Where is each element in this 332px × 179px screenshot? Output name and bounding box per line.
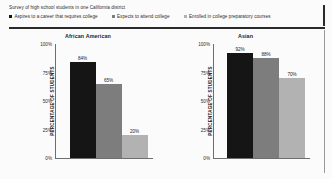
- y-tick: 50%: [43, 99, 52, 104]
- legend-label: Enrolled in college preparatory courses: [189, 14, 271, 20]
- legend-item-aspires: Aspires to a career that requires colleg…: [9, 14, 98, 20]
- y-tick: 25%: [201, 127, 210, 132]
- bar-slot: 70%: [279, 44, 305, 158]
- bar-value-label: 92%: [227, 47, 253, 52]
- legend-swatch-icon: [112, 15, 115, 18]
- bar-aspires[interactable]: 92%: [227, 53, 253, 158]
- bar-group: 92% 88% 70%: [214, 44, 310, 158]
- legend-item-enrolled: Enrolled in college preparatory courses: [184, 14, 271, 20]
- bar-value-label: 65%: [96, 78, 122, 83]
- panel-title: African American: [9, 33, 167, 39]
- plot-area: PERCENTAGE OF STUDENTS 100% 75% 50% 25% …: [55, 44, 153, 159]
- legend-label: Expects to attend college: [117, 14, 170, 20]
- bar-value-label: 20%: [122, 129, 148, 134]
- bar-value-label: 84%: [70, 56, 96, 61]
- y-tick: 0%: [45, 156, 52, 161]
- header-divider: [9, 27, 325, 29]
- bar-group: 84% 65% 20%: [56, 44, 153, 158]
- bar-slot: 65%: [96, 44, 122, 158]
- bar-value-label: 88%: [253, 52, 279, 57]
- legend-label: Aspires to a career that requires colleg…: [14, 14, 97, 20]
- bar-enrolled[interactable]: 70%: [279, 78, 305, 158]
- bar-slot: 84%: [70, 44, 96, 158]
- bar-slot: 92%: [227, 44, 253, 158]
- chart-title: Survey of high school students in one Ca…: [9, 5, 321, 11]
- chart-legend: Aspires to a career that requires colleg…: [9, 14, 321, 20]
- bar-enrolled[interactable]: 20%: [122, 135, 148, 158]
- y-tick: 75%: [43, 70, 52, 75]
- bar-aspires[interactable]: 84%: [70, 62, 96, 158]
- y-tick: 100%: [198, 42, 210, 47]
- legend-swatch-icon: [184, 15, 187, 18]
- panel-african-american: African American PERCENTAGE OF STUDENTS …: [9, 30, 167, 173]
- panel-asian: Asian PERCENTAGE OF STUDENTS 100% 75% 50…: [167, 30, 325, 173]
- bar-expects[interactable]: 88%: [253, 58, 279, 158]
- y-tick: 25%: [43, 127, 52, 132]
- legend-swatch-icon: [9, 15, 12, 18]
- bar-slot: 20%: [122, 44, 148, 158]
- chart-panels: African American PERCENTAGE OF STUDENTS …: [9, 30, 325, 173]
- bar-slot: 88%: [253, 44, 279, 158]
- bar-value-label: 70%: [279, 72, 305, 77]
- y-tick: 75%: [201, 70, 210, 75]
- chart-header: Survey of high school students in one Ca…: [9, 5, 325, 26]
- panel-title: Asian: [167, 33, 324, 39]
- chart-figure: Survey of high school students in one Ca…: [0, 0, 332, 179]
- legend-item-expects: Expects to attend college: [112, 14, 170, 20]
- y-tick: 0%: [203, 156, 210, 161]
- y-tick: 50%: [201, 99, 210, 104]
- bar-expects[interactable]: 65%: [96, 84, 122, 158]
- plot-area: PERCENTAGE OF STUDENTS 100% 75% 50% 25% …: [213, 44, 310, 159]
- y-tick: 100%: [40, 42, 52, 47]
